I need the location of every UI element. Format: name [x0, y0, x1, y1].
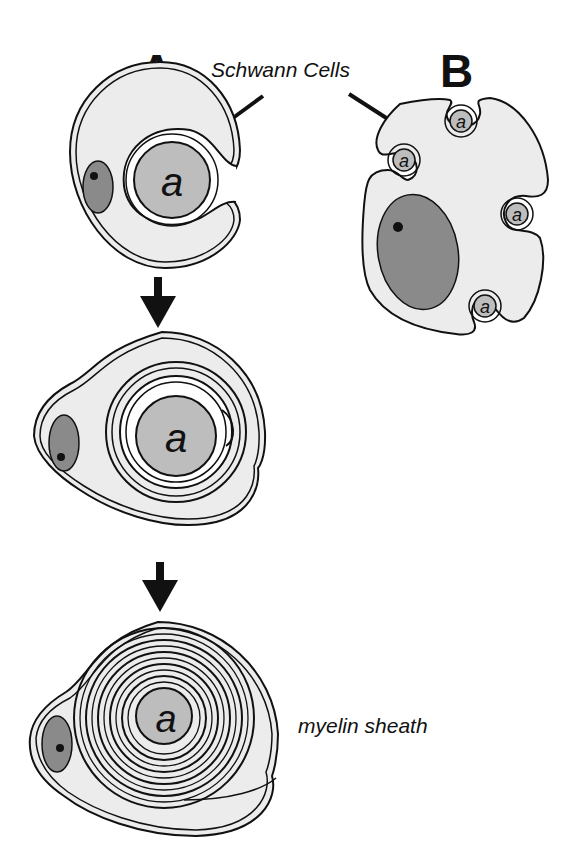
axon-b-3: a — [501, 198, 533, 230]
svg-text:a: a — [399, 151, 409, 171]
svg-text:a: a — [512, 205, 522, 225]
schwann-cell-stage-1: a — [70, 62, 240, 268]
svg-text:a: a — [456, 112, 466, 132]
schwann-cell-stage-2: a — [34, 332, 265, 525]
axon-b-1: a — [445, 105, 477, 137]
axon-label-stage-3: a — [155, 698, 176, 740]
schwann-cell-panel-b: a a a a — [362, 98, 548, 335]
nucleolus-panel-b — [393, 222, 403, 232]
axon-b-2: a — [388, 144, 420, 176]
axon-label-stage-1: a — [161, 160, 183, 204]
svg-text:a: a — [480, 297, 490, 317]
axon-label-stage-2: a — [165, 416, 187, 460]
schwann-cell-stage-3: a — [30, 622, 278, 836]
nucleolus-stage-2 — [57, 453, 65, 461]
axon-b-4: a — [469, 290, 501, 322]
down-arrow-1 — [140, 277, 176, 328]
nucleus-stage-1 — [83, 161, 113, 213]
nucleolus-stage-3 — [56, 744, 64, 752]
nucleus-stage-2 — [49, 415, 79, 471]
nucleolus-stage-1 — [90, 172, 98, 180]
diagram-canvas: a a — [0, 0, 573, 859]
nucleus-stage-3 — [42, 716, 72, 772]
down-arrow-2 — [142, 562, 178, 612]
